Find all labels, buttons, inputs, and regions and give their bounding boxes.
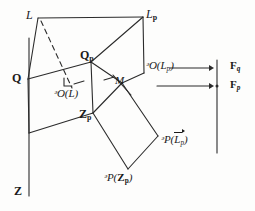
edge-Qp-Zp (91, 62, 93, 113)
label-Fp-subscript: p (237, 84, 241, 92)
edge-Lp-Qp-diagonal (91, 17, 143, 62)
label-L: L (26, 9, 33, 21)
label-Fp: Fp (230, 79, 240, 92)
edge-M-OLp (122, 73, 144, 83)
tick-mark-left (74, 81, 84, 84)
label-Q: Q (12, 72, 21, 84)
label-M: M (115, 75, 124, 86)
label-origin-of-L: ᵊO(L) (54, 88, 78, 99)
label-Fq: Fq (230, 60, 240, 73)
label-projection-of-Lp: ᵊP(Lp) (161, 134, 188, 147)
edge-diamond-bottom-Zp (93, 113, 128, 169)
edge-Q-Qp (28, 62, 91, 79)
edge-Lp-OLp (143, 17, 144, 73)
label-Fq-subscript: q (237, 65, 241, 73)
label-Lp: Lp (146, 8, 157, 22)
label-projection-of-Zp: ᵊP(Zp) (104, 172, 132, 185)
edge-L-Lp (38, 17, 143, 18)
label-Zp-subscript: p (87, 113, 91, 122)
label-Lp-subscript: p (153, 13, 157, 22)
label-origin-of-Lp: ᵊO(Lp) (146, 60, 174, 73)
edge-diamond-Zp-M (93, 83, 122, 113)
label-Qp: Qp (80, 49, 94, 63)
edge-diamond-right-bottom (128, 136, 158, 169)
projection-diagram-figure: L Lp Q Qp Z Zp M ᵊO(L) ᵊO(Lp) ᵊP(Lp) ᵊP(… (0, 0, 255, 211)
label-Zp: Zp (79, 108, 91, 122)
tick-mark-right (104, 77, 114, 80)
force-arrow-lower-head (209, 83, 214, 89)
label-Qp-subscript: p (89, 54, 93, 63)
right-vertical-bar-tick (216, 85, 219, 88)
dashed-edge-L-foot (41, 21, 72, 88)
label-projection-of-Lp-overbar: Lp (174, 134, 184, 147)
label-Z: Z (14, 185, 22, 197)
force-arrow-upper-head (209, 65, 214, 71)
